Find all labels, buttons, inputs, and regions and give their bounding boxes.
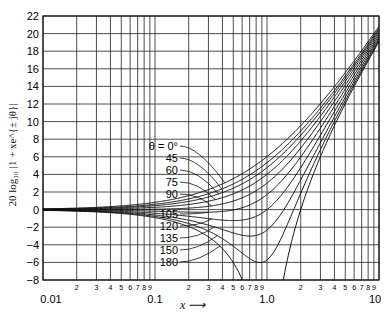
x-minor-tick-label: 5 bbox=[343, 284, 347, 291]
x-minor-tick-label: 8 bbox=[142, 284, 146, 291]
y-tick-label: −4 bbox=[26, 239, 39, 251]
x-minor-tick-label: 2 bbox=[187, 284, 191, 291]
curve-label-theta-180: 180 bbox=[160, 256, 178, 268]
x-major-tick-label: 0.1 bbox=[147, 293, 162, 305]
y-tick-label: 22 bbox=[27, 10, 39, 22]
y-tick-label: 20 bbox=[27, 28, 39, 40]
y-tick-label: 10 bbox=[27, 116, 39, 128]
y-tick-label: −6 bbox=[26, 256, 39, 268]
curve-label-theta-75: 75 bbox=[166, 176, 178, 188]
leader-line bbox=[180, 170, 219, 194]
y-tick-label: 2 bbox=[33, 186, 39, 198]
chart-plot: −8−6−4−202468101214161820222345678923456… bbox=[0, 0, 391, 320]
x-axis-label-text: x bbox=[180, 298, 185, 312]
x-major-tick-label: 1.0 bbox=[259, 293, 274, 305]
y-tick-label: 14 bbox=[27, 80, 39, 92]
curve-label-theta-0: θ = 0° bbox=[149, 140, 178, 152]
y-tick-label: −8 bbox=[26, 274, 39, 286]
arrow-right-icon: ⟶ bbox=[188, 298, 205, 312]
curve-theta-45 bbox=[43, 28, 379, 209]
curve-theta-0 bbox=[43, 26, 379, 209]
x-minor-tick-label: 5 bbox=[231, 284, 235, 291]
x-minor-tick-label: 2 bbox=[299, 284, 303, 291]
x-minor-tick-label: 4 bbox=[332, 284, 336, 291]
x-minor-tick-label: 7 bbox=[360, 284, 364, 291]
curve-label-theta-90: 90 bbox=[166, 188, 178, 200]
x-minor-tick-label: 8 bbox=[254, 284, 258, 291]
x-minor-tick-label: 3 bbox=[206, 284, 210, 291]
x-minor-tick-label: 3 bbox=[94, 284, 98, 291]
leader-line bbox=[180, 146, 225, 183]
x-minor-tick-label: 2 bbox=[75, 284, 79, 291]
x-minor-tick-label: 7 bbox=[248, 284, 252, 291]
y-tick-label: 8 bbox=[33, 133, 39, 145]
curve-theta-60 bbox=[43, 30, 379, 210]
leader-line bbox=[180, 158, 222, 189]
curve-label-theta-150: 150 bbox=[160, 244, 178, 256]
x-major-tick-label: 0.01 bbox=[40, 293, 61, 305]
x-minor-tick-label: 4 bbox=[220, 284, 224, 291]
x-minor-tick-label: 6 bbox=[240, 284, 244, 291]
x-minor-tick-label: 7 bbox=[136, 284, 140, 291]
curve-label-theta-120: 120 bbox=[160, 220, 178, 232]
x-minor-tick-label: 5 bbox=[119, 284, 123, 291]
y-tick-label: 6 bbox=[33, 151, 39, 163]
y-tick-label: 12 bbox=[27, 98, 39, 110]
x-minor-tick-label: 9 bbox=[372, 284, 376, 291]
y-tick-label: 18 bbox=[27, 45, 39, 57]
y-tick-label: 0 bbox=[33, 204, 39, 216]
x-minor-tick-label: 4 bbox=[108, 284, 112, 291]
leader-line bbox=[180, 246, 220, 262]
leader-line bbox=[180, 227, 215, 238]
y-tick-label: 16 bbox=[27, 63, 39, 75]
x-minor-tick-label: 3 bbox=[318, 284, 322, 291]
y-tick-label: 4 bbox=[33, 168, 39, 180]
curve-label-theta-135: 135 bbox=[160, 232, 178, 244]
x-axis-label: x ⟶ bbox=[180, 298, 205, 313]
y-axis-label-text: 20 log₁₀ |1 + xe^{± jθ}| bbox=[6, 103, 18, 206]
curve-label-theta-45: 45 bbox=[166, 152, 178, 164]
x-minor-tick-label: 9 bbox=[260, 284, 264, 291]
y-axis-label: 20 log₁₀ |1 + xe^{± jθ}| bbox=[4, 90, 20, 220]
x-minor-tick-label: 6 bbox=[128, 284, 132, 291]
x-minor-tick-label: 6 bbox=[352, 284, 356, 291]
y-tick-label: −2 bbox=[26, 221, 39, 233]
curve-label-theta-105: 105 bbox=[160, 208, 178, 220]
curve-theta-75 bbox=[43, 31, 379, 209]
x-minor-tick-label: 9 bbox=[148, 284, 152, 291]
x-major-tick-label: 10 bbox=[369, 293, 381, 305]
curve-label-theta-60: 60 bbox=[166, 164, 178, 176]
x-minor-tick-label: 8 bbox=[366, 284, 370, 291]
